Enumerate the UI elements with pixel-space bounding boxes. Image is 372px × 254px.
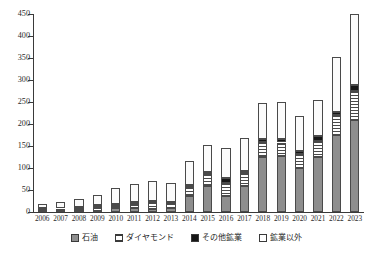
legend-item-0[interactable]: 石油 [71, 233, 98, 243]
segment-other_mining [332, 112, 341, 116]
bar-2020 [295, 116, 304, 212]
segment-non_mining [350, 14, 359, 85]
y-tick-mark [28, 146, 33, 147]
segment-other_mining [240, 171, 249, 173]
segment-non_mining [148, 181, 157, 200]
y-tick-mark [28, 212, 33, 213]
segment-other_mining [258, 139, 267, 143]
stacked-bar-chart: 050100150200250300350400450 200620072008… [0, 0, 372, 254]
x-tick-label-2010: 2010 [107, 214, 125, 224]
segment-other_mining [295, 151, 304, 154]
segment-non_mining [313, 100, 322, 137]
x-axis-line [33, 212, 364, 213]
y-tick-mark [28, 168, 33, 169]
legend-swatch-solid-white [259, 234, 267, 242]
segment-diamond [258, 142, 267, 157]
legend-item-2[interactable]: その他鉱業 [191, 233, 242, 243]
bar-2019 [277, 102, 286, 212]
segment-diamond [111, 205, 120, 208]
segment-other_mining [313, 136, 322, 140]
x-tick-label-2016: 2016 [217, 214, 235, 224]
legend-swatch-solid-black [191, 234, 199, 242]
segment-oil [111, 208, 120, 212]
y-tick-mark [28, 124, 33, 125]
segment-other_mining [203, 172, 212, 174]
segment-diamond [313, 141, 322, 158]
x-tick-label-2009: 2009 [88, 214, 106, 224]
segment-oil [313, 157, 322, 212]
x-tick-label-2012: 2012 [143, 214, 161, 224]
segment-diamond [74, 208, 83, 211]
segment-diamond [240, 173, 249, 186]
segment-oil [185, 196, 194, 212]
legend-swatch-horizontal-stripes [115, 234, 123, 242]
segment-diamond [130, 204, 139, 208]
segment-diamond [93, 207, 102, 211]
bar-2006 [38, 204, 47, 212]
legend-label: その他鉱業 [202, 233, 242, 243]
bar-2013 [166, 183, 175, 212]
segment-non_mining [240, 138, 249, 171]
segment-non_mining [130, 184, 139, 202]
segment-diamond [277, 143, 286, 156]
x-tick-label-2011: 2011 [125, 214, 143, 224]
bar-2016 [221, 148, 230, 212]
legend-item-1[interactable]: ダイヤモンド [115, 233, 174, 243]
bar-2012 [148, 181, 157, 212]
x-axis-labels: 2006200720082009201020112012201320142015… [33, 214, 364, 228]
segment-diamond [295, 154, 304, 168]
segment-oil [350, 120, 359, 212]
bar-2022 [332, 57, 341, 212]
segment-other_mining [130, 202, 139, 204]
x-tick-label-2013: 2013 [162, 214, 180, 224]
legend-label: 鉱業以外 [270, 233, 302, 243]
segment-non_mining [221, 148, 230, 178]
segment-oil [166, 208, 175, 212]
segment-non_mining [56, 202, 65, 208]
segment-non_mining [93, 195, 102, 205]
segment-oil [258, 157, 267, 212]
x-tick-label-2008: 2008 [70, 214, 88, 224]
y-tick-mark [28, 14, 33, 15]
bar-2021 [313, 100, 322, 212]
segment-other_mining [350, 85, 359, 91]
segment-diamond [38, 209, 47, 211]
segment-oil [240, 186, 249, 212]
segment-diamond [350, 91, 359, 120]
chart-legend: 石油ダイヤモンドその他鉱業鉱業以外 [0, 233, 372, 243]
bar-2015 [203, 145, 212, 212]
segment-diamond [166, 203, 175, 208]
bar-2007 [56, 202, 65, 212]
bar-2017 [240, 138, 249, 212]
bar-2011 [130, 184, 139, 212]
segment-diamond [203, 174, 212, 186]
segment-oil [148, 209, 157, 212]
segment-diamond [148, 202, 157, 209]
segment-other_mining [93, 205, 102, 207]
segment-oil [295, 168, 304, 212]
segment-oil [203, 186, 212, 212]
x-tick-label-2022: 2022 [327, 214, 345, 224]
segment-non_mining [38, 204, 47, 208]
segment-non_mining [203, 145, 212, 171]
y-tick-mark [28, 80, 33, 81]
segment-other_mining [185, 185, 194, 187]
segment-oil [221, 196, 230, 212]
bar-2023 [350, 14, 359, 212]
x-tick-label-2020: 2020 [290, 214, 308, 224]
segment-non_mining [295, 116, 304, 151]
y-tick-mark [28, 36, 33, 37]
x-tick-label-2014: 2014 [180, 214, 198, 224]
bar-2008 [74, 199, 83, 212]
segment-diamond [221, 183, 230, 196]
bar-2010 [111, 188, 120, 212]
segment-diamond [56, 209, 65, 212]
x-tick-label-2021: 2021 [309, 214, 327, 224]
segment-non_mining [185, 161, 194, 185]
segment-oil [277, 156, 286, 212]
y-tick-mark [28, 102, 33, 103]
legend-item-3[interactable]: 鉱業以外 [259, 233, 302, 243]
bar-2009 [93, 195, 102, 212]
legend-swatch-solid-gray [71, 234, 79, 242]
bar-2018 [258, 103, 267, 212]
